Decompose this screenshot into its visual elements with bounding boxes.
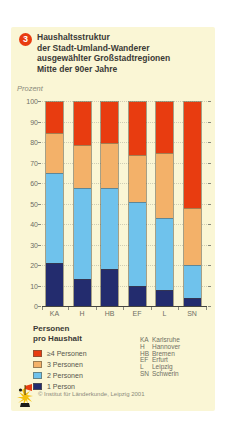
institute-logo-icon: [14, 382, 36, 408]
y-tick-left-60: [38, 183, 41, 184]
chart-title: Haushaltsstruktur der Stadt-Umland-Wande…: [37, 32, 209, 74]
bar-KA: [45, 101, 64, 306]
bar-segment-KA-2 Personen: [46, 173, 63, 263]
x-axis-line: [42, 306, 207, 307]
figure-number-badge: 3: [19, 33, 32, 46]
bar-segment-HB-1 Person: [101, 269, 118, 306]
bar-segment-KA-≥4 Personen: [46, 102, 63, 133]
bar-segment-HB-≥4 Personen: [101, 102, 118, 143]
bar-segment-HB-2 Personen: [101, 188, 118, 270]
x-axis-label-HB: HB: [96, 310, 123, 317]
bar-segment-SN-2 Personen: [184, 265, 201, 298]
bar-EF: [128, 101, 147, 306]
legend-swatch: [33, 361, 42, 368]
y-tick-left-40: [38, 224, 41, 225]
y-tick-right-0: [208, 306, 211, 307]
y-axis-label-100: 100: [18, 98, 38, 105]
y-tick-right-80: [208, 142, 211, 143]
bar-segment-L-2 Personen: [156, 218, 173, 289]
y-tick-left-90: [38, 122, 41, 123]
city-name: Schwerin: [152, 371, 179, 378]
y-tick-right-100: [208, 101, 211, 102]
legend-label: ≥4 Personen: [47, 350, 87, 357]
legend-label: 3 Personen: [47, 361, 83, 368]
chart-title-line-3: ausgewählter Großstadtregionen: [37, 53, 209, 64]
y-tick-right-60: [208, 183, 211, 184]
legend-title-line-1: Personen: [33, 324, 87, 334]
legend: Personen pro Haushalt ≥4 Personen3 Perso…: [33, 324, 87, 392]
chart-card: 3 Haushaltsstruktur der Stadt-Umland-Wan…: [11, 27, 215, 411]
chart-title-line-4: Mitte der 90er Jahre: [37, 64, 209, 75]
y-axis-unit-label: Prozent: [17, 84, 43, 93]
legend-label: 1 Person: [47, 383, 75, 390]
y-axis-label-50: 50: [18, 200, 38, 207]
legend-title-line-2: pro Haushalt: [33, 334, 87, 344]
x-tick-end: [206, 307, 207, 310]
bar-segment-L-3 Personen: [156, 153, 173, 218]
chart-title-line-1: Haushaltsstruktur: [37, 32, 209, 43]
city-abbr: SN: [140, 371, 152, 378]
y-tick-right-30: [208, 245, 211, 246]
legend-swatch: [33, 350, 42, 357]
bar-segment-KA-3 Personen: [46, 133, 63, 174]
y-tick-left-70: [38, 163, 41, 164]
bar-SN: [183, 101, 202, 306]
legend-items: ≥4 Personen3 Personen2 Personen1 Person: [33, 348, 87, 392]
y-tick-left-100: [38, 101, 41, 102]
y-axis-label-20: 20: [18, 262, 38, 269]
y-tick-right-70: [208, 163, 211, 164]
bar-segment-SN-3 Personen: [184, 208, 201, 265]
bar-segment-SN-≥4 Personen: [184, 102, 201, 208]
bar-segment-EF-1 Person: [129, 286, 146, 306]
copyright-credit: © Institut für Länderkunde, Leipzig 2001: [38, 391, 145, 397]
y-axis-label-90: 90: [18, 118, 38, 125]
stacked-bar-plot: 0102030405060708090100KAHHBEFLSN: [42, 101, 207, 306]
y-tick-right-50: [208, 204, 211, 205]
figure-page: 3 Haushaltsstruktur der Stadt-Umland-Wan…: [0, 0, 225, 422]
bar-segment-H-1 Person: [74, 279, 91, 306]
y-axis-label-70: 70: [18, 159, 38, 166]
y-tick-left-20: [38, 265, 41, 266]
bar-L: [155, 101, 174, 306]
bar-segment-KA-1 Person: [46, 263, 63, 306]
legend-label: 2 Personen: [47, 372, 83, 379]
y-axis-label-0: 0: [18, 303, 38, 310]
bar-segment-H-3 Personen: [74, 145, 91, 188]
x-axis-label-SN: SN: [179, 310, 206, 317]
bar-segment-H-≥4 Personen: [74, 102, 91, 145]
y-axis-label-60: 60: [18, 180, 38, 187]
y-tick-left-10: [38, 286, 41, 287]
x-axis-label-EF: EF: [124, 310, 151, 317]
legend-swatch: [33, 372, 42, 379]
legend-title: Personen pro Haushalt: [33, 324, 87, 343]
bar-segment-EF-3 Personen: [129, 155, 146, 202]
y-tick-right-90: [208, 122, 211, 123]
y-tick-right-10: [208, 286, 211, 287]
bar-segment-L-≥4 Personen: [156, 102, 173, 153]
bar-segment-L-1 Person: [156, 290, 173, 306]
y-tick-left-80: [38, 142, 41, 143]
bar-HB: [100, 101, 119, 306]
legend-item-3 Personen: 3 Personen: [33, 359, 87, 370]
bar-segment-HB-3 Personen: [101, 143, 118, 188]
legend-item-≥4 Personen: ≥4 Personen: [33, 348, 87, 359]
y-tick-right-40: [208, 224, 211, 225]
bar-segment-H-2 Personen: [74, 188, 91, 280]
y-axis-label-30: 30: [18, 241, 38, 248]
y-axis-label-10: 10: [18, 282, 38, 289]
y-axis-label-80: 80: [18, 139, 38, 146]
y-axis-label-40: 40: [18, 221, 38, 228]
y-tick-left-0: [38, 306, 41, 307]
x-axis-label-L: L: [151, 310, 178, 317]
bar-segment-SN-1 Person: [184, 298, 201, 306]
y-tick-left-50: [38, 204, 41, 205]
bar-H: [73, 101, 92, 306]
city-key-row-SN: SNSchwerin: [140, 371, 180, 378]
y-tick-right-20: [208, 265, 211, 266]
x-tick-start: [42, 307, 43, 310]
x-axis-label-KA: KA: [41, 310, 68, 317]
chart-title-line-2: der Stadt-Umland-Wanderer: [37, 43, 209, 54]
bar-segment-EF-2 Personen: [129, 202, 146, 286]
legend-item-2 Personen: 2 Personen: [33, 370, 87, 381]
bar-segment-EF-≥4 Personen: [129, 102, 146, 155]
